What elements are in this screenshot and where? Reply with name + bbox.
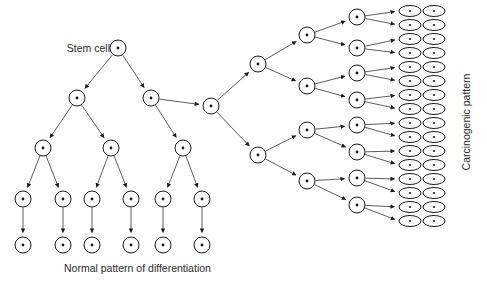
cell-nucleus-dot xyxy=(433,66,435,68)
cell-node-root xyxy=(110,40,126,56)
cell-nucleus-dot xyxy=(433,122,435,124)
cell-nucleus-dot xyxy=(409,66,411,68)
cell-node-E5 xyxy=(349,117,365,133)
edge-E3-terminal-4 xyxy=(365,68,394,72)
edge-E8-terminal-15 xyxy=(365,208,395,219)
cell-nucleus-dot xyxy=(257,63,260,66)
cell-nucleus-dot xyxy=(433,192,435,194)
cell-nucleus-dot xyxy=(433,206,435,208)
diagram-canvas: Stem cell Normal pattern of differentiat… xyxy=(0,0,487,282)
cell-lineage-diagram: Stem cell Normal pattern of differentiat… xyxy=(0,0,487,282)
edge-E1-terminal-0 xyxy=(365,12,394,16)
cell-nucleus-dot xyxy=(409,178,411,180)
edge-E5-terminal-8 xyxy=(365,123,394,124)
cell-nucleus-dot xyxy=(162,244,165,247)
edge-L2a-N6 xyxy=(186,156,198,187)
cell-nucleus-dot xyxy=(409,24,411,26)
cell-node-L1b xyxy=(103,140,119,156)
cell-nucleus-dot xyxy=(356,47,359,50)
cell-node-E6 xyxy=(349,144,365,160)
edge-root-L1 xyxy=(85,55,113,89)
cell-nucleus-dot xyxy=(433,94,435,96)
cell-nucleus-dot xyxy=(150,97,153,100)
cell-nucleus-dot xyxy=(91,198,94,201)
edge-L2-L2a xyxy=(156,105,177,137)
cell-nucleus-dot xyxy=(201,244,204,247)
cell-node-D1 xyxy=(299,27,315,43)
cell-nucleus-dot xyxy=(162,198,165,201)
cell-nucleus-dot xyxy=(182,147,185,150)
edge-E6-terminal-11 xyxy=(365,155,395,164)
cell-node-D3 xyxy=(299,122,315,138)
edge-E6-terminal-10 xyxy=(365,151,394,152)
cell-nucleus-dot xyxy=(409,80,411,82)
cell-nucleus-dot xyxy=(409,220,411,222)
cell-nucleus-dot xyxy=(130,198,133,201)
edge-L1b-N4 xyxy=(114,156,126,187)
edge-C1-D2 xyxy=(266,67,296,80)
cell-nucleus-dot xyxy=(433,220,435,222)
cell-nucleus-dot xyxy=(433,108,435,110)
edge-E3-terminal-5 xyxy=(365,75,394,81)
cell-node-E4 xyxy=(349,92,365,108)
cell-node-T1 xyxy=(15,237,31,253)
cell-node-N1 xyxy=(15,191,31,207)
cell-node-L1a xyxy=(35,140,51,156)
cell-nucleus-dot xyxy=(433,150,435,152)
edge-L1-L1b xyxy=(82,105,104,138)
edge-D1-E1 xyxy=(315,21,345,32)
cell-nucleus-dot xyxy=(409,206,411,208)
cell-nucleus-dot xyxy=(433,136,435,138)
cell-nucleus-dot xyxy=(409,94,411,96)
cell-node-N6 xyxy=(194,191,210,207)
edge-E5-terminal-9 xyxy=(365,127,395,135)
cell-nucleus-dot xyxy=(433,24,435,26)
cell-nucleus-dot xyxy=(409,164,411,166)
cell-nucleus-dot xyxy=(91,244,94,247)
edge-L2a-N5 xyxy=(168,156,180,187)
edge-E4-terminal-7 xyxy=(365,102,394,108)
edge-D3-E5 xyxy=(315,126,344,129)
cell-nucleus-dot xyxy=(110,147,113,150)
edge-E7-terminal-13 xyxy=(365,181,395,192)
cell-node-E3 xyxy=(349,65,365,81)
cell-nucleus-dot xyxy=(210,105,213,108)
edge-C1-D1 xyxy=(265,41,296,59)
edge-D2-E3 xyxy=(315,76,345,84)
cell-nucleus-dot xyxy=(409,150,411,152)
cell-node-L1 xyxy=(69,90,85,106)
cell-nucleus-dot xyxy=(22,244,25,247)
cell-node-C0 xyxy=(203,98,219,114)
cell-node-D4 xyxy=(299,173,315,189)
carcinogenic-pattern-label: Carcinogenic pattern xyxy=(460,73,472,170)
cell-node-E2 xyxy=(349,40,365,56)
cell-nucleus-dot xyxy=(409,192,411,194)
cell-nucleus-dot xyxy=(409,38,411,40)
cell-nucleus-dot xyxy=(409,10,411,12)
cell-node-L2a xyxy=(175,140,191,156)
edge-C2-D4 xyxy=(266,159,296,175)
cell-nucleus-dot xyxy=(356,72,359,75)
edge-C0-C2 xyxy=(217,112,249,146)
cell-node-T6 xyxy=(194,237,210,253)
cell-nucleus-dot xyxy=(257,154,260,157)
cell-node-N2 xyxy=(55,191,71,207)
cell-nucleus-dot xyxy=(409,122,411,124)
edge-E7-terminal-12 xyxy=(365,178,394,179)
cell-node-N5 xyxy=(155,191,171,207)
cell-node-D2 xyxy=(299,78,315,94)
cell-nucleus-dot xyxy=(306,85,309,88)
cell-nucleus-dot xyxy=(356,16,359,19)
cell-node-C2 xyxy=(250,147,266,163)
edge-L1b-N3 xyxy=(96,156,108,187)
cell-nucleus-dot xyxy=(306,129,309,132)
edge-D3-E6 xyxy=(315,133,346,147)
cell-nucleus-dot xyxy=(356,99,359,102)
edge-C0-C1 xyxy=(217,72,248,100)
edge-L1a-N2 xyxy=(46,156,58,187)
edge-root-L2 xyxy=(123,55,144,87)
cell-nucleus-dot xyxy=(62,244,65,247)
edge-L2-C0 xyxy=(159,99,198,104)
cell-node-N4 xyxy=(123,191,139,207)
cell-node-E1 xyxy=(349,9,365,25)
